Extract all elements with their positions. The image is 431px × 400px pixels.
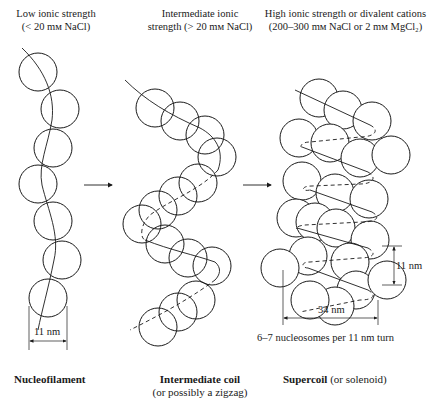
nucleosome [179, 164, 217, 202]
nucleosome [34, 129, 72, 167]
dna-strand-front [125, 80, 220, 170]
nucleofilament-width-label: 11 nm [34, 326, 60, 337]
supercoil-structure [261, 79, 410, 325]
nucleosome [34, 202, 72, 240]
dna-strand-back-2 [130, 280, 215, 330]
nucleosome [372, 136, 410, 174]
nucleosome [159, 177, 197, 215]
dna-strand [22, 48, 56, 330]
nucleosome [139, 308, 177, 346]
nucleosome [193, 247, 231, 285]
nucleosome [19, 53, 57, 91]
nucleosome [317, 209, 355, 247]
caption-nucleofilament: Nucleofilament [14, 373, 85, 386]
nucleosome [41, 90, 79, 128]
nucleosome [43, 241, 81, 279]
supercoil-width-label: 34 nm [318, 304, 345, 315]
intermediate-coil-structure [123, 80, 236, 346]
caption-supercoil-sub: (or solenoid) [327, 373, 386, 385]
nucleosomes-per-turn-label: 6–7 nucleosomes per 11 nm turn [257, 332, 394, 343]
nucleofilament-structure [19, 48, 81, 350]
caption-intermediate-coil: Intermediate coil (or possibly a zigzag) [130, 373, 270, 399]
nucleosome [261, 249, 299, 287]
nucleosome [177, 281, 215, 319]
nucleosome [29, 279, 67, 317]
nucleosome [161, 102, 199, 140]
caption-intermediate-title: Intermediate coil [130, 373, 270, 386]
dna-strand-front-2 [145, 240, 220, 280]
caption-supercoil: Supercoil (or solenoid) [283, 373, 387, 386]
caption-intermediate-sub: (or possibly a zigzag) [130, 386, 270, 399]
nucleosome [353, 102, 391, 140]
nucleosome [123, 205, 161, 243]
nucleosome [19, 165, 57, 203]
nucleosome [350, 180, 388, 218]
nucleosome-circles [123, 89, 236, 346]
nucleosome [146, 225, 184, 263]
caption-supercoil-title: Supercoil [283, 373, 327, 385]
nucleosome [186, 116, 224, 154]
nucleosome [283, 162, 321, 200]
supercoil-pitch-label: 11 nm [396, 260, 422, 271]
